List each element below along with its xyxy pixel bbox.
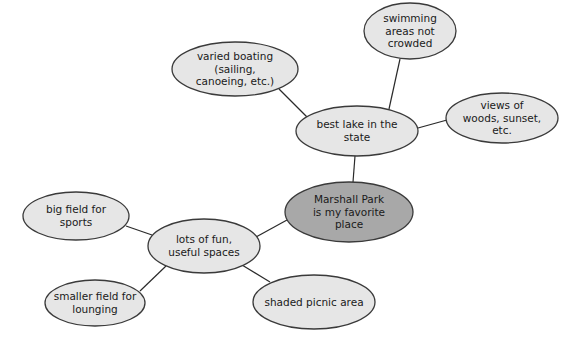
node-label-line: etc. — [492, 124, 512, 136]
idea-node-picnic: shaded picnic area — [253, 275, 375, 329]
node-label-line: lots of fun, — [176, 233, 232, 245]
connector-center-spaces — [256, 220, 287, 237]
node-label-line: smaller field for — [54, 290, 137, 302]
connector-lake-boating — [279, 89, 307, 117]
idea-node-boating: varied boating(sailing,canoeing, etc.) — [172, 42, 298, 96]
node-label-line: state — [344, 131, 371, 143]
node-label-line: sports — [60, 216, 92, 228]
idea-node-views: views ofwoods, sunset,etc. — [446, 93, 558, 143]
node-label-line: swimming — [383, 12, 437, 24]
nodes-layer: Marshall Parkis my favoriteplacebest lak… — [23, 3, 558, 329]
connector-spaces-smallfield — [140, 266, 166, 291]
idea-node-smallfield: smaller field forlounging — [45, 280, 145, 326]
idea-node-swimming: swimmingareas notcrowded — [364, 3, 456, 59]
node-label-line: (sailing, — [214, 63, 255, 75]
central-idea-node: Marshall Parkis my favoriteplace — [285, 182, 413, 242]
node-label-line: place — [335, 218, 363, 230]
node-label-line: shaded picnic area — [264, 296, 363, 308]
node-label-line: crowded — [388, 37, 433, 49]
idea-node-bigfield: big field forsports — [23, 192, 129, 240]
node-label-line: big field for — [46, 203, 107, 215]
connector-spaces-bigfield — [126, 226, 152, 235]
connector-spaces-picnic — [242, 265, 270, 282]
node-label-line: varied boating — [197, 50, 273, 62]
concept-web-diagram: Marshall Parkis my favoriteplacebest lak… — [0, 0, 579, 344]
node-label-line: best lake in the — [316, 118, 397, 130]
node-label-line: woods, sunset, — [463, 112, 541, 124]
node-label-line: views of — [480, 99, 523, 111]
idea-node-spaces: lots of fun,useful spaces — [148, 219, 260, 273]
connector-center-lake — [353, 156, 355, 182]
node-label-line: areas not — [385, 25, 434, 37]
connector-lake-views — [418, 120, 447, 128]
node-label-line: useful spaces — [168, 246, 239, 258]
idea-node-lake: best lake in thestate — [296, 106, 418, 156]
node-label-line: is my favorite — [313, 206, 385, 218]
node-label-line: lounging — [72, 303, 118, 315]
connector-lake-swimming — [389, 59, 400, 109]
node-label-line: canoeing, etc.) — [196, 75, 274, 87]
node-label-line: Marshall Park — [314, 193, 385, 205]
